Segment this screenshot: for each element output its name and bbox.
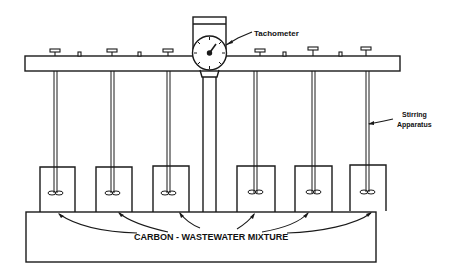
- mixture-label: CARBON - WASTEWATER MIXTURE: [134, 232, 288, 242]
- jar-test-apparatus-diagram: Tachometer Stirring Apparatus CARBON - W…: [0, 0, 458, 275]
- tachometer: [193, 17, 227, 70]
- paddles: [48, 190, 375, 195]
- tachometer-label: Tachometer: [254, 29, 299, 38]
- beakers: [40, 165, 386, 212]
- mixture-leaders: [59, 213, 371, 233]
- stirring-label-line2: Apparatus: [397, 121, 432, 129]
- support-column: [200, 70, 219, 212]
- stirring-label-line1: Stirring: [402, 111, 427, 119]
- stirring-shafts: [54, 71, 369, 193]
